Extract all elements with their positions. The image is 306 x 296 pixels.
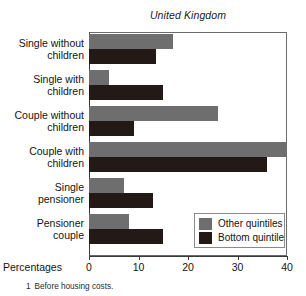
bar-other-quintiles — [89, 106, 218, 121]
bar-other-quintiles — [89, 34, 173, 49]
category-label-line2: children — [47, 85, 84, 97]
legend-swatch-icon — [199, 218, 212, 230]
bar-bottom-quintile — [89, 193, 153, 208]
bar-bottom-quintile — [89, 121, 134, 136]
legend-swatch-icon — [199, 232, 212, 244]
bar-bottom-quintile — [89, 229, 163, 244]
x-tick-label: 0 — [74, 261, 104, 273]
category-label-line1: Pensioner — [37, 217, 84, 229]
category-label-line2: children — [47, 157, 84, 169]
x-tick-label: 20 — [173, 261, 203, 273]
x-tick-mark — [188, 256, 189, 260]
bar-other-quintiles — [89, 178, 124, 193]
bar-bottom-quintile — [89, 157, 267, 172]
category-label-pensioner-couple: Pensioner couple — [0, 217, 84, 242]
x-tick-label: 40 — [272, 261, 302, 273]
footnote-text: Before housing costs. — [35, 282, 114, 291]
x-axis-title: Percentages — [3, 261, 62, 273]
bar-other-quintiles — [89, 214, 129, 229]
category-label-line1: Couple with — [29, 145, 84, 157]
category-axis-labels: Single without children Single with chil… — [0, 32, 84, 256]
x-tick-mark — [287, 256, 288, 260]
bar-other-quintiles — [89, 70, 109, 85]
category-label-single-with-children: Single with children — [0, 73, 84, 98]
bar-group-couple-with-children — [89, 140, 287, 176]
bar-group-single-with-children — [89, 68, 287, 104]
category-label-single-pensioner: Single pensioner — [0, 181, 84, 206]
x-tick-mark — [238, 256, 239, 260]
x-tick-mark — [89, 256, 90, 260]
x-tick-label: 10 — [124, 261, 154, 273]
legend: Other quintiles Bottom quintile — [194, 213, 285, 248]
category-label-single-without-children: Single without children — [0, 37, 84, 62]
legend-label: Bottom quintile — [218, 231, 284, 245]
legend-item-other-quintiles: Other quintiles — [199, 217, 283, 231]
footnote-marker: 1 — [26, 282, 31, 291]
bar-bottom-quintile — [89, 49, 156, 64]
bar-other-quintiles — [89, 142, 287, 157]
category-label-line1: Single with — [33, 73, 84, 85]
category-label-line2: couple — [53, 229, 84, 241]
bar-group-single-pensioner — [89, 176, 287, 212]
category-label-couple-with-children: Couple with children — [0, 145, 84, 170]
category-label-line2: children — [47, 121, 84, 133]
footnote: 1Before housing costs. — [26, 282, 113, 291]
bar-bottom-quintile — [89, 85, 163, 100]
legend-item-bottom-quintile: Bottom quintile — [199, 231, 283, 245]
x-tick-label: 30 — [223, 261, 253, 273]
bar-group-couple-without-children — [89, 104, 287, 140]
category-label-couple-without-children: Couple without children — [0, 109, 84, 134]
category-label-line1: Couple without — [15, 109, 84, 121]
category-label-line1: Single — [55, 181, 84, 193]
category-label-line2: children — [47, 49, 84, 61]
category-label-line2: pensioner — [38, 193, 84, 205]
chart-figure: United Kingdom Single without children S… — [0, 0, 306, 296]
legend-label: Other quintiles — [218, 217, 282, 231]
category-label-line1: Single without — [19, 37, 84, 49]
bar-group-single-without-children — [89, 32, 287, 68]
x-tick-mark — [139, 256, 140, 260]
chart-title: United Kingdom — [89, 9, 287, 21]
